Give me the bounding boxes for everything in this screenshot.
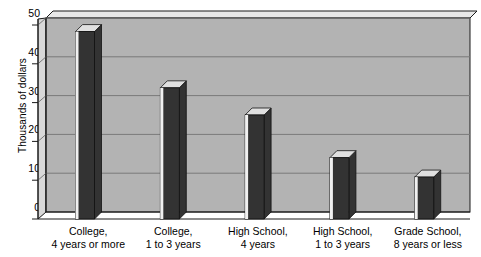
x-axis-label-line1: College, — [69, 225, 108, 237]
x-axis-label-line1: High School, — [313, 225, 373, 237]
bar-left-highlight — [245, 115, 248, 219]
x-axis-label-2: College,1 to 3 years — [146, 225, 201, 250]
bar-4 — [330, 151, 356, 219]
x-axis-label-line2: 1 to 3 years — [313, 238, 373, 251]
x-axis-label-5: Grade School,8 years or less — [394, 225, 462, 250]
bar-side-face — [179, 81, 186, 219]
plot-left-depth-face — [38, 18, 46, 219]
x-axis-label-1: College,4 years or more — [52, 225, 126, 250]
x-axis-label-line2: 4 years — [228, 238, 288, 251]
bar-side-face — [95, 25, 102, 219]
bar-side-face — [349, 151, 356, 219]
x-axis-label-line2: 8 years or less — [394, 238, 462, 251]
bar-3 — [245, 108, 271, 219]
x-axis-label-line1: Grade School, — [394, 225, 461, 237]
x-axis-label-line2: 1 to 3 years — [146, 238, 201, 251]
x-axis-label-line1: College, — [154, 225, 193, 237]
bar-2 — [160, 81, 186, 219]
x-axis-label-3: High School,4 years — [228, 225, 288, 250]
plot-top-face — [46, 11, 477, 18]
bar-left-highlight — [330, 158, 333, 219]
bar-5 — [415, 170, 441, 219]
bar-left-highlight — [76, 32, 79, 219]
bar-1 — [76, 25, 102, 219]
bar-chart: Thousands of dollars 50 40 30 20 10 0 Co… — [0, 0, 481, 257]
x-axis-category-labels: College,4 years or moreCollege,1 to 3 ye… — [0, 219, 481, 257]
x-axis-label-4: High School,1 to 3 years — [313, 225, 373, 250]
x-axis-label-line2: 4 years or more — [52, 238, 126, 251]
x-axis-label-line1: High School, — [228, 225, 288, 237]
bar-left-highlight — [415, 177, 418, 219]
bar-side-face — [434, 170, 441, 219]
bar-side-face — [264, 108, 271, 219]
bar-left-highlight — [160, 88, 163, 219]
